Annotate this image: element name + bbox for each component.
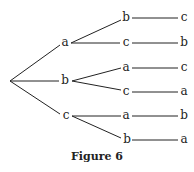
node-l3-5: a: [180, 133, 187, 145]
figure-caption: Figure 6: [0, 150, 194, 163]
node-l2-0: b: [122, 11, 130, 23]
node-l1-2: c: [63, 109, 70, 121]
node-l3-0: c: [181, 11, 188, 23]
node-l1-1: b: [61, 74, 69, 86]
node-l3-4: b: [180, 109, 188, 121]
node-l3-1: b: [180, 36, 188, 48]
node-l2-1: c: [123, 36, 130, 48]
node-l3-2: c: [181, 61, 188, 73]
node-l3-3: a: [180, 85, 187, 97]
node-l2-3: c: [123, 85, 130, 97]
node-l2-5: b: [123, 133, 131, 145]
node-l1-0: a: [61, 36, 68, 48]
tree-edges: [0, 0, 194, 172]
node-l2-4: a: [122, 109, 129, 121]
node-l2-2: a: [122, 61, 129, 73]
